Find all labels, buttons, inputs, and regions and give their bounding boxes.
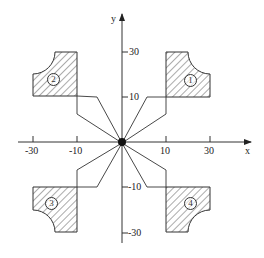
y-axis-label: y [111,14,116,24]
y-tick-neg30: -30 [128,228,141,238]
y-tick-10: 10 [129,92,139,102]
quadrant-2-label: 2 [47,73,60,86]
origin-point [118,138,126,146]
quadrant-1-label: 1 [184,74,197,87]
diagram-canvas [0,0,264,258]
y-tick-neg10: -10 [128,182,141,192]
x-tick-neg30: -30 [25,146,38,156]
quadrant-3-label: 3 [45,197,58,210]
x-tick-10: 10 [160,146,170,156]
quadrant-4-label: 4 [184,197,197,210]
y-tick-30: 30 [129,47,139,57]
x-tick-neg10: -10 [69,146,82,156]
x-axis-label: x [245,146,250,156]
region-quadrant-3 [33,187,77,232]
x-tick-30: 30 [204,146,214,156]
